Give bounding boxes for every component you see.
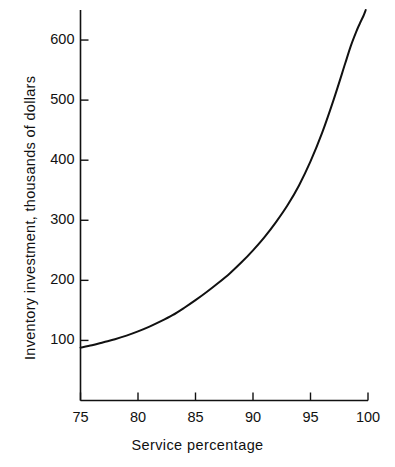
plot-area — [0, 0, 395, 467]
data-series-line — [81, 10, 366, 348]
y-tick-marks — [81, 40, 89, 340]
axis-lines — [81, 10, 369, 401]
x-tick-marks — [81, 393, 369, 401]
chart-figure: Inventory investment, thousands of dolla… — [0, 0, 395, 467]
